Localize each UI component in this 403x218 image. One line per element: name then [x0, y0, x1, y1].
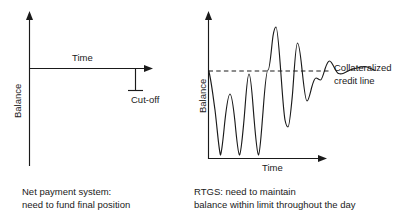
- y-axis-arrowhead: [26, 11, 33, 20]
- left-caption-line-1: Net payment system:: [22, 185, 130, 198]
- x-axis-arrowhead: [144, 65, 153, 72]
- credit-line-legend-line-2: credit line: [334, 75, 392, 88]
- cutoff-marker: [128, 69, 143, 91]
- right-x-axis-label: Time: [262, 162, 283, 175]
- cutoff-label: Cut-off: [131, 94, 159, 107]
- left-caption-line-2: need to fund final position: [22, 198, 130, 211]
- panel-rtgs: Balance Time Collateralized credit line …: [185, 0, 403, 218]
- right-caption-line-1: RTGS: need to maintain: [194, 185, 356, 198]
- x-axis: [209, 155, 328, 162]
- balance-curve: [209, 27, 376, 155]
- left-x-axis-label: Time: [72, 52, 93, 65]
- panel-net-payment-system: Balance Time Cut-off Net payment system:…: [0, 0, 201, 218]
- right-caption: RTGS: need to maintain balance within li…: [194, 185, 356, 211]
- y-axis-arrowhead: [205, 11, 212, 20]
- right-caption-line-2: balance within limit throughout the day: [194, 198, 356, 211]
- net-payment-system-plot: [0, 0, 201, 180]
- right-y-axis-label: Balance: [197, 79, 208, 113]
- x-axis: [30, 65, 154, 72]
- rtgs-plot: [185, 0, 403, 180]
- figure-container: Balance Time Cut-off Net payment system:…: [0, 0, 403, 218]
- credit-line-legend-line-1: Collateralized: [334, 62, 392, 75]
- x-axis-arrowhead: [318, 155, 327, 162]
- credit-line-legend: Collateralized credit line: [334, 62, 392, 87]
- left-caption: Net payment system: need to fund final p…: [22, 185, 130, 211]
- y-axis: [26, 11, 33, 166]
- left-y-axis-label: Balance: [12, 84, 23, 118]
